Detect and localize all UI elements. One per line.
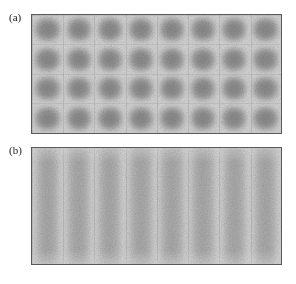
blob-cell bbox=[188, 45, 219, 75]
blob-cell bbox=[250, 45, 281, 75]
panel-a-frame bbox=[31, 14, 282, 134]
panel-b-label: (b) bbox=[9, 145, 22, 156]
stripe-cell bbox=[188, 148, 219, 264]
blob-cell bbox=[125, 74, 156, 104]
blob-cell bbox=[32, 45, 63, 75]
stripe-cell bbox=[63, 148, 94, 264]
blob-cell bbox=[250, 74, 281, 104]
panel-b-surface bbox=[32, 148, 281, 264]
blob-cell bbox=[63, 15, 94, 45]
panel-b-frame bbox=[31, 147, 282, 265]
blob-cell bbox=[94, 74, 125, 104]
stripe-cell bbox=[250, 148, 281, 264]
blob-cell bbox=[32, 74, 63, 104]
blob-cell bbox=[63, 45, 94, 75]
blob-cell bbox=[219, 15, 250, 45]
blob-cell bbox=[157, 74, 188, 104]
blob-cell bbox=[125, 45, 156, 75]
figure-root: (a) bbox=[0, 0, 296, 284]
blob-cell bbox=[94, 45, 125, 75]
blob-cell bbox=[250, 15, 281, 45]
stripe-cell bbox=[94, 148, 125, 264]
blob-cell bbox=[250, 104, 281, 134]
stripe-cell bbox=[219, 148, 250, 264]
panel-a-label: (a) bbox=[9, 12, 21, 23]
blob-cell bbox=[32, 104, 63, 134]
blob-cell bbox=[125, 104, 156, 134]
blob-cell bbox=[157, 45, 188, 75]
blob-cell bbox=[188, 74, 219, 104]
blob-cell bbox=[125, 15, 156, 45]
blob-cell bbox=[219, 45, 250, 75]
blob-cell bbox=[219, 104, 250, 134]
panel-b-stripe-grid bbox=[32, 148, 281, 264]
blob-cell bbox=[157, 104, 188, 134]
blob-cell bbox=[188, 15, 219, 45]
blob-cell bbox=[32, 15, 63, 45]
panel-a-blob-grid bbox=[32, 15, 281, 133]
blob-cell bbox=[63, 74, 94, 104]
blob-cell bbox=[94, 104, 125, 134]
blob-cell bbox=[188, 104, 219, 134]
stripe-cell bbox=[157, 148, 188, 264]
blob-cell bbox=[63, 104, 94, 134]
panel-a-surface bbox=[32, 15, 281, 133]
blob-cell bbox=[94, 15, 125, 45]
stripe-cell bbox=[32, 148, 63, 264]
blob-cell bbox=[157, 15, 188, 45]
blob-cell bbox=[219, 74, 250, 104]
stripe-cell bbox=[125, 148, 156, 264]
